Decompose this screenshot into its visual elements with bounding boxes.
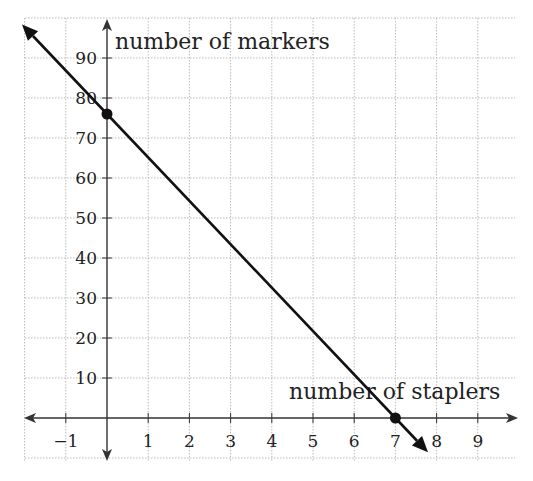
y-tick-label: 70 xyxy=(75,128,97,148)
data-point xyxy=(102,109,113,120)
x-tick-label: 6 xyxy=(349,431,360,451)
x-tick-label: 2 xyxy=(184,431,195,451)
x-tick-label: −1 xyxy=(53,431,78,451)
x-axis-title: number of staplers xyxy=(289,379,500,404)
x-tick-label: 3 xyxy=(225,431,236,451)
y-tick-label: 30 xyxy=(75,288,97,308)
y-tick-label: 50 xyxy=(75,208,97,228)
y-tick-label: 90 xyxy=(75,48,97,68)
x-tick-label: 1 xyxy=(143,431,154,451)
y-tick-label: 20 xyxy=(75,328,97,348)
x-tick-label: 7 xyxy=(390,431,401,451)
y-tick-label: 10 xyxy=(75,368,97,388)
x-tick-label: 5 xyxy=(308,431,319,451)
x-tick-label: 4 xyxy=(266,431,277,451)
y-tick-label: 60 xyxy=(75,168,97,188)
y-tick-label: 40 xyxy=(75,248,97,268)
y-axis-title: number of markers xyxy=(115,29,330,54)
x-tick-label: 8 xyxy=(431,431,442,451)
line-chart: −1123456789102030405060708090 number of … xyxy=(0,0,533,481)
data-point xyxy=(390,413,401,424)
x-tick-label: 9 xyxy=(472,431,483,451)
data-series xyxy=(22,24,428,452)
